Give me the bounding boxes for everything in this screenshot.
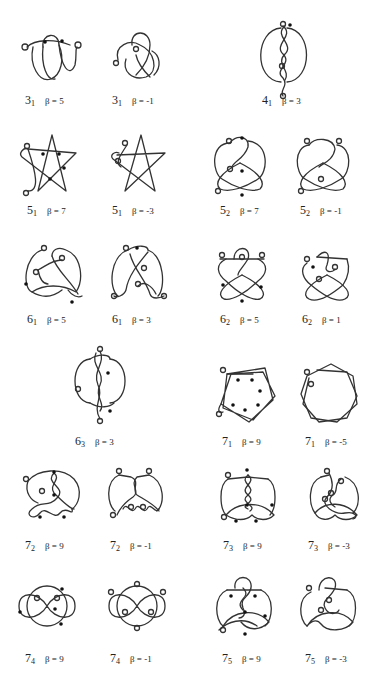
- knot-diagram-7-5-beta-minus-3: [297, 570, 362, 640]
- beta-value: β = 7: [47, 206, 66, 216]
- caption-6-2-beta-1: 62β = 1: [302, 312, 341, 327]
- beta-value: β = 3: [132, 315, 151, 325]
- knot-diagram-7-4-beta-minus-1: [105, 580, 170, 635]
- caption-7-3-beta-9: 73β = 9: [223, 538, 262, 553]
- knot-index: 1: [31, 99, 35, 108]
- knot-diagram-7-3-beta-9: [218, 465, 280, 527]
- knot-diagram-5-1-beta-7: [18, 133, 83, 195]
- caption-7-2-beta-minus-1: 72β = -1: [110, 538, 152, 553]
- beta-value: β = 5: [47, 315, 66, 325]
- caption-7-4-beta-9: 74β = 9: [25, 651, 64, 666]
- knot-diagram-4-1-beta-3: [255, 20, 315, 100]
- beta-value: β = 7: [240, 206, 259, 216]
- caption-5-1-beta-minus-3: 51β = -3: [112, 203, 154, 218]
- knot-diagram-7-2-beta-minus-1: [105, 465, 167, 525]
- caption-6-2-beta-5: 62β = 5: [220, 312, 259, 327]
- beta-value: β = 9: [242, 437, 261, 447]
- knot-index: 1: [33, 209, 37, 218]
- caption-6-3-beta-3: 63β = 3: [75, 434, 114, 449]
- caption-5-2-beta-minus-1: 52β = -1: [300, 203, 342, 218]
- knot-diagram-7-1-beta-minus-5: [297, 360, 362, 430]
- knot-diagram-6-1-beta-3: [108, 240, 168, 305]
- caption-7-1-beta-minus-5: 71β = -5: [305, 434, 347, 449]
- caption-3-1-beta-5: 31β = 5: [25, 93, 64, 108]
- beta-value: β = -1: [132, 96, 154, 106]
- beta-value: β = -3: [325, 654, 347, 664]
- knot-diagram-6-3-beta-3: [70, 345, 130, 425]
- knot-index: 4: [116, 657, 120, 666]
- beta-value: β = 9: [242, 654, 261, 664]
- knot-diagram-6-2-beta-1: [297, 245, 357, 310]
- knot-index: 2: [226, 209, 230, 218]
- caption-7-3-beta-minus-3: 73β = -3: [308, 538, 350, 553]
- beta-value: β = -5: [325, 437, 347, 447]
- beta-value: β = 5: [240, 315, 259, 325]
- knot-index: 1: [311, 440, 315, 449]
- knot-index: 5: [228, 657, 232, 666]
- knot-index: 5: [311, 657, 315, 666]
- knot-diagram-6-2-beta-5: [212, 245, 272, 310]
- caption-7-5-beta-minus-3: 75β = -3: [305, 651, 347, 666]
- caption-6-1-beta-5: 61β = 5: [27, 312, 66, 327]
- knot-diagram-5-2-beta-minus-1: [293, 133, 353, 203]
- beta-value: β = 3: [95, 437, 114, 447]
- knot-diagram-7-2-beta-9: [18, 465, 80, 525]
- knot-index: 3: [81, 440, 85, 449]
- knot-index: 1: [33, 318, 37, 327]
- caption-3-1-beta-minus-1: 31β = -1: [112, 93, 154, 108]
- knot-diagram-5-1-beta-minus-3: [105, 133, 170, 195]
- knot-diagram-7-4-beta-9: [15, 580, 80, 635]
- beta-value: β = 3: [282, 96, 301, 106]
- beta-value: β = 1: [322, 315, 341, 325]
- beta-value: β = 9: [243, 541, 262, 551]
- knot-diagram-7-1-beta-9: [213, 360, 283, 430]
- knot-diagram-3-1-beta-5: [15, 25, 85, 85]
- knot-diagram-7-3-beta-minus-3: [305, 465, 365, 527]
- knot-index: 2: [226, 318, 230, 327]
- knot-index: 2: [306, 209, 310, 218]
- caption-6-1-beta-3: 61β = 3: [112, 312, 151, 327]
- beta-value: β = -3: [132, 206, 154, 216]
- caption-5-1-beta-7: 51β = 7: [27, 203, 66, 218]
- knot-index: 3: [314, 544, 318, 553]
- beta-value: β = 9: [45, 541, 64, 551]
- knot-index: 1: [118, 318, 122, 327]
- knot-index: 1: [268, 99, 272, 108]
- beta-value: β = 9: [45, 654, 64, 664]
- caption-4-1-beta-3: 41β = 3: [262, 93, 301, 108]
- caption-7-5-beta-9: 75β = 9: [222, 651, 261, 666]
- knot-index: 1: [118, 209, 122, 218]
- knot-index: 4: [31, 657, 35, 666]
- knot-index: 2: [31, 544, 35, 553]
- beta-value: β = -1: [320, 206, 342, 216]
- knot-diagram-7-5-beta-9: [213, 570, 278, 640]
- knot-diagram-3-1-beta-minus-1: [110, 25, 170, 85]
- knot-index: 1: [228, 440, 232, 449]
- caption-7-1-beta-9: 71β = 9: [222, 434, 261, 449]
- beta-value: β = -1: [130, 654, 152, 664]
- knot-diagram-6-1-beta-5: [22, 240, 87, 305]
- knot-index: 2: [116, 544, 120, 553]
- knot-diagram-5-2-beta-7: [210, 133, 270, 203]
- knot-index: 2: [308, 318, 312, 327]
- caption-7-4-beta-minus-1: 74β = -1: [110, 651, 152, 666]
- caption-7-2-beta-9: 72β = 9: [25, 538, 64, 553]
- knot-index: 3: [229, 544, 233, 553]
- caption-5-2-beta-7: 52β = 7: [220, 203, 259, 218]
- beta-value: β = 5: [45, 96, 64, 106]
- knot-index: 1: [118, 99, 122, 108]
- beta-value: β = -3: [328, 541, 350, 551]
- beta-value: β = -1: [130, 541, 152, 551]
